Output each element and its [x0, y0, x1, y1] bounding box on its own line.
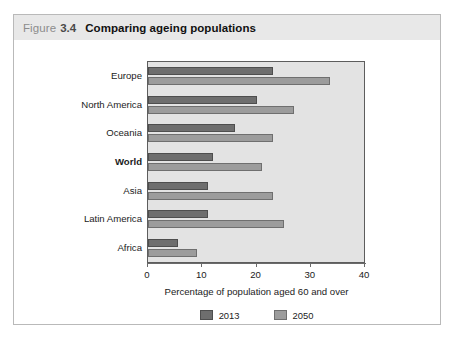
category-axis-labels: EuropeNorth AmericaOceaniaWorldAsiaLatin… [14, 62, 142, 262]
bar-latin-america-2013 [148, 210, 208, 218]
x-tick-30 [310, 263, 311, 267]
x-tick-20 [256, 263, 257, 267]
x-axis-line [147, 263, 366, 264]
bar-asia-2013 [148, 182, 208, 190]
category-label-oceania: Oceania [16, 127, 142, 138]
category-label-latin-america: Latin America [16, 213, 142, 224]
legend-label-2050: 2050 [293, 310, 314, 321]
bar-europe-2050 [148, 77, 330, 85]
figure-header: Figure 3.4 Comparing ageing populations [14, 15, 440, 40]
bar-asia-2050 [148, 192, 273, 200]
bar-latin-america-2050 [148, 220, 284, 228]
bar-europe-2013 [148, 67, 273, 75]
bar-africa-2013 [148, 239, 178, 247]
x-tick-label-30: 30 [304, 269, 315, 280]
x-axis-title: Percentage of population aged 60 and ove… [147, 286, 366, 297]
legend-item-2013[interactable]: 2013 [200, 310, 240, 321]
chart-legend: 20132050 [147, 308, 366, 322]
figure-label-word: Figure [23, 22, 56, 34]
x-tick-10 [201, 263, 202, 267]
bar-chart: EuropeNorth AmericaOceaniaWorldAsiaLatin… [14, 40, 442, 325]
bar-oceania-2013 [148, 124, 235, 132]
bar-africa-2050 [148, 249, 197, 257]
x-tick-label-10: 10 [196, 269, 207, 280]
legend-swatch-2050 [274, 310, 287, 320]
bar-north-america-2050 [148, 106, 294, 114]
bar-world-2050 [148, 163, 262, 171]
category-label-europe: Europe [16, 70, 142, 81]
category-label-africa: Africa [16, 242, 142, 253]
figure-title: Comparing ageing populations [85, 22, 256, 34]
x-tick-40 [364, 263, 365, 267]
category-label-north-america: North America [16, 99, 142, 110]
x-tick-label-0: 0 [144, 269, 149, 280]
figure-number: 3.4 [60, 22, 76, 34]
legend-label-2013: 2013 [219, 310, 240, 321]
x-tick-label-40: 40 [359, 269, 370, 280]
bar-world-2013 [148, 153, 213, 161]
bars-layer [148, 62, 365, 262]
legend-item-2050[interactable]: 2050 [274, 310, 314, 321]
figure-card: Figure 3.4 Comparing ageing populations … [13, 14, 441, 325]
x-tick-0 [147, 263, 148, 267]
x-tick-label-20: 20 [250, 269, 261, 280]
bar-oceania-2050 [148, 134, 273, 142]
category-label-asia: Asia [16, 185, 142, 196]
bar-north-america-2013 [148, 96, 257, 104]
legend-swatch-2013 [200, 310, 213, 320]
category-label-world: World [16, 156, 142, 167]
